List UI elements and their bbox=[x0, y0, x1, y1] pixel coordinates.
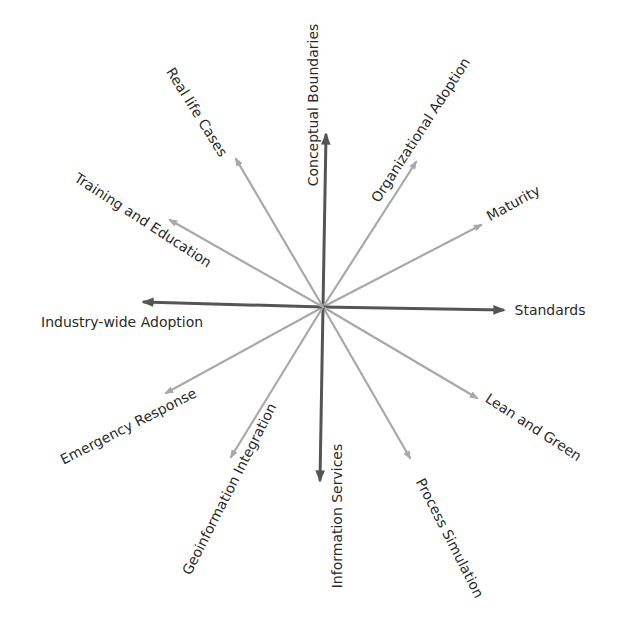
arrow-geoinformation-integration bbox=[231, 307, 323, 457]
label-conceptual-boundaries: Conceptual Boundaries bbox=[306, 24, 320, 187]
label-industry-wide-adoption: Industry-wide Adoption bbox=[41, 315, 203, 329]
arrow-organizational-adoption bbox=[323, 162, 416, 307]
label-standards: Standards bbox=[515, 303, 586, 317]
arrow-lean-and-green bbox=[323, 307, 477, 398]
label-information-services: Information Services bbox=[330, 444, 344, 589]
arrow-maturity bbox=[323, 225, 481, 307]
arrow-training-and-education bbox=[170, 220, 323, 307]
radial-spoke-diagram: Conceptual BoundariesOrganizational Adop… bbox=[0, 0, 617, 617]
arrow-information-services bbox=[320, 307, 323, 480]
arrow-standards bbox=[323, 307, 503, 310]
arrow-industry-wide-adoption bbox=[144, 302, 323, 307]
arrow-conceptual-boundaries bbox=[323, 135, 326, 307]
arrow-process-simulation bbox=[323, 307, 410, 458]
